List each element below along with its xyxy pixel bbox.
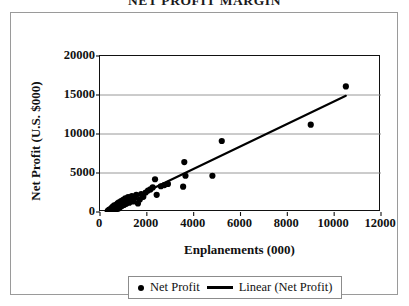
legend-entry-linear-net-profit: Linear (Net Profit)	[207, 280, 333, 295]
legend-marker-dot-icon	[138, 285, 144, 291]
legend-marker-line-icon	[207, 286, 233, 288]
chart-figure: NET PROFIT MARGIN Net Profit (U.S. $000)…	[0, 0, 409, 306]
y-axis-tick-label: 5000	[35, 165, 95, 180]
plot-area	[99, 55, 380, 211]
legend-entry-net-profit: Net Profit	[138, 280, 200, 295]
y-axis-tick-label: 15000	[35, 87, 95, 102]
legend-label-net-profit: Net Profit	[150, 280, 200, 295]
chart-legend: Net Profit Linear (Net Profit)	[128, 276, 342, 299]
chart-title: NET PROFIT MARGIN	[0, 0, 409, 9]
x-axis-title: Enplanements (000)	[99, 242, 380, 258]
y-axis-tick-label: 20000	[35, 48, 95, 63]
axis-ticks	[100, 56, 381, 212]
y-axis-tick-label: 10000	[35, 126, 95, 141]
x-axis-tick-labels: 020004000600080001000012000	[99, 216, 380, 234]
legend-label-linear-net-profit: Linear (Net Profit)	[239, 280, 333, 295]
chart-frame: Net Profit (U.S. $000) 05000100001500020…	[10, 12, 398, 295]
x-axis-tick-label: 12000	[345, 216, 409, 231]
y-axis-tick-labels: 05000100001500020000	[29, 55, 95, 211]
